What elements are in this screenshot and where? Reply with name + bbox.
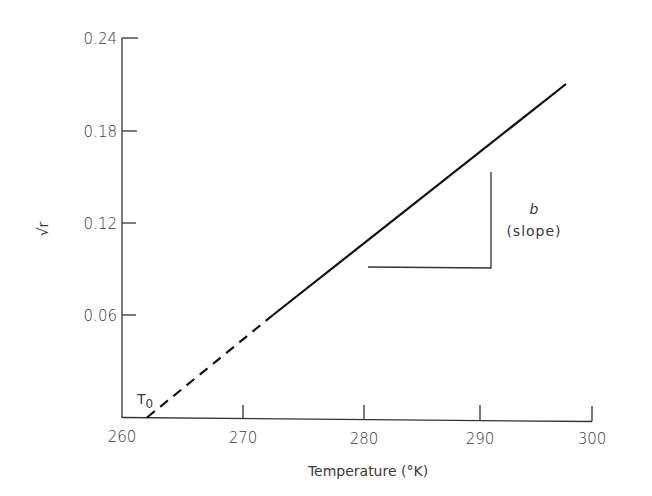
t0-label: T0 xyxy=(136,391,153,411)
data-line xyxy=(273,84,566,315)
slope-triangle xyxy=(368,172,491,268)
y-tick-label: 0.12 xyxy=(84,215,117,233)
y-tick-label: 0.24 xyxy=(84,30,117,48)
x-tick-label: 270 xyxy=(229,429,258,447)
y-tick-label: 0.18 xyxy=(84,123,117,141)
chart: 0.24 0.18 0.12 0.06 260 270 280 290 300 … xyxy=(0,0,652,496)
extrapolated-line xyxy=(147,315,273,418)
y-tick-label: 0.06 xyxy=(84,307,117,325)
svg-text:√r: √r xyxy=(35,221,51,236)
x-tick-label: 300 xyxy=(578,430,607,448)
y-ticks xyxy=(122,38,138,315)
slope-symbol: b xyxy=(530,201,539,217)
x-axis xyxy=(122,418,592,422)
y-axis-title: √r xyxy=(35,221,51,236)
x-axis-title: Temperature (°K) xyxy=(307,463,428,479)
x-tick-label: 290 xyxy=(466,430,495,448)
x-tick-label: 260 xyxy=(108,428,137,446)
x-tick-label: 280 xyxy=(350,430,379,448)
slope-text: (slope) xyxy=(506,223,561,239)
